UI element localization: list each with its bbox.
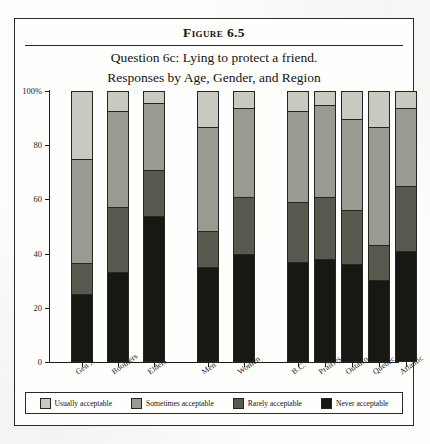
figure-number-title: Figure 6.5 [15, 25, 413, 41]
y-axis-tick-label: 20 [34, 303, 43, 313]
legend-swatch-icon [321, 398, 332, 409]
bar-segment-never [108, 272, 128, 361]
bar-segment-sometimes [288, 111, 308, 202]
y-axis-tick [45, 254, 50, 255]
legend-swatch-icon [233, 398, 244, 409]
bar-segment-rarely [72, 263, 92, 293]
bar-segment-sometimes [342, 119, 362, 210]
legend-item: Never acceptable [321, 398, 389, 409]
bar-segment-sometimes [198, 127, 218, 232]
bar-segment-rarely [108, 207, 128, 272]
bar-segment-usually [342, 92, 362, 119]
bar-segment-usually [369, 92, 389, 127]
bar-segment-sometimes [234, 108, 254, 197]
bar-segment-never [198, 267, 218, 361]
stacked-bar [143, 91, 165, 362]
bar-segment-never [315, 259, 335, 361]
stacked-bar [197, 91, 219, 362]
stacked-bar [71, 91, 93, 362]
bar-segment-rarely [396, 186, 416, 251]
bar-segment-usually [108, 92, 128, 111]
legend-label: Sometimes acceptable [146, 399, 214, 408]
bar-segment-rarely [342, 210, 362, 264]
scanned-page: Figure 6.5 Question 6c: Lying to protect… [0, 0, 430, 444]
stacked-bar [287, 91, 309, 362]
bar-segment-usually [396, 92, 416, 108]
bar-segment-never [288, 262, 308, 361]
y-axis-tick-label: 40 [34, 249, 43, 259]
bar-segment-usually [144, 92, 164, 103]
bar-segment-never [396, 251, 416, 361]
bar-segment-never [234, 254, 254, 361]
x-axis-line [49, 362, 399, 363]
y-axis-tick [45, 362, 50, 363]
chart-legend: Usually acceptableSometimes acceptableRa… [25, 392, 403, 414]
bar-segment-usually [198, 92, 218, 127]
stacked-bar [233, 91, 255, 362]
stacked-bar [341, 91, 363, 362]
stacked-bar [368, 91, 390, 362]
bar-segment-never [72, 294, 92, 362]
bar-segment-rarely [144, 170, 164, 216]
bar-segment-sometimes [144, 103, 164, 171]
bar-segment-rarely [315, 197, 335, 259]
bar-segment-sometimes [72, 159, 92, 264]
legend-item: Sometimes acceptable [131, 398, 214, 409]
y-axis-tick [45, 145, 50, 146]
stacked-bar-chart-plot-area: 020406080100% Gen XBoomersEldersMenWomen… [49, 91, 399, 362]
y-axis-tick [45, 199, 50, 200]
bar-segment-rarely [369, 245, 389, 281]
bar-segment-usually [234, 92, 254, 108]
bar-segment-never [369, 280, 389, 361]
bar-segment-usually [315, 92, 335, 105]
legend-swatch-icon [131, 398, 142, 409]
bar-segment-usually [72, 92, 92, 159]
title-divider [25, 45, 403, 46]
y-axis-tick-label: 80 [34, 140, 43, 150]
bar-segment-sometimes [369, 127, 389, 245]
stacked-bar [107, 91, 129, 362]
figure-subtitle-line-2: Responses by Age, Gender, and Region [15, 70, 413, 86]
figure-subtitle-line-1: Question 6c: Lying to protect a friend. [15, 50, 413, 66]
bar-segment-sometimes [315, 105, 335, 196]
y-axis-line [49, 90, 50, 363]
figure-frame: Figure 6.5 Question 6c: Lying to protect… [14, 18, 414, 426]
legend-swatch-icon [40, 398, 51, 409]
legend-label: Never acceptable [336, 399, 389, 408]
bar-segment-sometimes [108, 111, 128, 208]
y-axis-tick-label: 0 [38, 357, 42, 367]
bar-segment-never [342, 264, 362, 361]
legend-item: Usually acceptable [40, 398, 113, 409]
stacked-bar [395, 91, 417, 362]
bar-segment-never [144, 216, 164, 361]
stacked-bar [314, 91, 336, 362]
y-axis-tick [45, 308, 50, 309]
y-axis-tick-label: 100% [22, 86, 42, 96]
legend-label: Rarely acceptable [248, 399, 302, 408]
y-axis-tick [45, 91, 50, 92]
y-axis-tick-label: 60 [34, 194, 43, 204]
bar-segment-rarely [198, 231, 218, 267]
bar-segment-rarely [234, 197, 254, 254]
bar-segment-usually [288, 92, 308, 111]
legend-item: Rarely acceptable [233, 398, 302, 409]
bar-segment-rarely [288, 202, 308, 262]
legend-label: Usually acceptable [55, 399, 113, 408]
bar-segment-sometimes [396, 108, 416, 186]
